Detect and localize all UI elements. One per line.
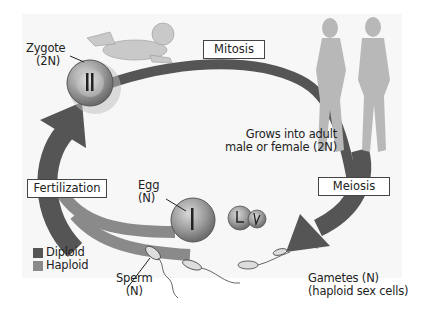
sperm-cells	[128, 244, 318, 298]
male-figure	[358, 17, 390, 152]
baby-figure	[87, 23, 174, 63]
mitosis-label: Mitosis	[203, 40, 265, 59]
gametes-label-line2: (haploid sex cells)	[308, 285, 408, 298]
egg-label: Egg (N)	[138, 179, 159, 205]
egg-label-ploidy: (N)	[138, 192, 159, 205]
life-cycle-diagram: Zygote (2N) Mitosis Grows into adult mal…	[0, 0, 429, 311]
gametes-label: Gametes (N) (haploid sex cells)	[308, 272, 408, 298]
legend-swatch-haploid	[33, 261, 43, 271]
meiosis-label: Meiosis	[318, 177, 390, 196]
sperm-label-ploidy: (N)	[116, 285, 152, 298]
adult-label-line2: male or female (2N)	[225, 141, 337, 154]
zygote-label-ploidy: (2N)	[26, 55, 65, 68]
sperm	[181, 258, 240, 283]
sperm-label: Sperm (N)	[116, 272, 152, 298]
adult-label: Grows into adult male or female (2N)	[225, 128, 337, 154]
legend-swatch-diploid	[33, 248, 43, 258]
meiosis-cells	[228, 206, 266, 230]
fertilization-label: Fertilization	[27, 179, 107, 198]
zygote-label: Zygote (2N)	[26, 42, 65, 68]
legend-label-haploid: Haploid	[46, 259, 88, 272]
